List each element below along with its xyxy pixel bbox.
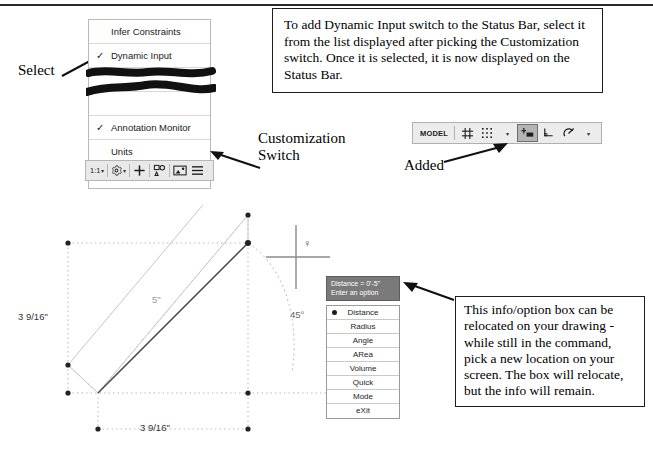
info-distance-value: Distance = 0'-5": [331, 279, 396, 288]
menu-item-label: Infer Constraints: [111, 26, 181, 37]
added-annotation-label: Added: [404, 157, 444, 174]
plus-icon: [133, 164, 146, 177]
scribble-redaction-marks: [86, 63, 216, 99]
option-label: Radius: [351, 322, 376, 331]
customization-switch-annotation: Customization Switch: [258, 130, 346, 164]
dimension-line-length: 5": [152, 294, 161, 305]
crosshair-cursor: [266, 225, 330, 289]
divider: [129, 164, 130, 177]
divider: [169, 164, 170, 177]
hamburger-icon: [191, 165, 204, 176]
annotation-scale-button[interactable]: 1:1 ▾: [88, 162, 106, 179]
chevron-down-icon: ▾: [587, 130, 590, 137]
instruction-note-bottom: This info/option box can be relocated on…: [455, 296, 645, 407]
chevron-down-icon: ▾: [506, 130, 509, 137]
option-mode[interactable]: Mode: [327, 390, 399, 404]
instruction-note-top-text: To add Dynamic Input switch to the Statu…: [284, 17, 592, 83]
shapes-icon: [153, 164, 166, 177]
option-quick[interactable]: Quick: [327, 376, 399, 390]
annotation-visibility-button[interactable]: ▾: [109, 162, 128, 179]
option-label: Quick: [353, 378, 373, 387]
annotation-scale-label: 1:1: [90, 166, 100, 175]
dimension-vertical-left: 3 9/16": [18, 311, 48, 322]
info-option-box[interactable]: Distance = 0'-5" Enter an option Distanc…: [326, 276, 400, 419]
option-label: Angle: [353, 336, 373, 345]
dynamic-input-button[interactable]: [517, 124, 538, 142]
page-header-rule: [0, 4, 653, 6]
divider: [107, 164, 108, 177]
menu-item-label: Dynamic Input: [111, 50, 172, 61]
info-prompt-text: Enter an option: [331, 288, 396, 297]
option-angle[interactable]: Angle: [327, 334, 399, 348]
option-label: Distance: [347, 308, 378, 317]
menu-item-annotation-monitor[interactable]: ✓ Annotation Monitor: [89, 116, 210, 140]
add-scales-button[interactable]: [131, 162, 148, 179]
option-exit[interactable]: eXit: [327, 404, 399, 418]
status-bar-tool-strip[interactable]: 1:1 ▾ ▾: [85, 160, 214, 181]
option-label: eXit: [356, 406, 370, 415]
option-label: Volume: [350, 364, 377, 373]
menu-item-label: Units: [111, 146, 133, 157]
dimension-horizontal-bottom: 3 9/16": [140, 422, 170, 433]
screen-icon: [173, 165, 187, 176]
option-distance[interactable]: Distance: [327, 306, 399, 320]
added-arrow: [440, 140, 510, 166]
option-label: ARea: [353, 350, 373, 359]
customization-switch-arrow: [204, 148, 264, 172]
selected-bullet-icon: [332, 310, 337, 315]
chevron-down-icon: ▾: [123, 167, 126, 174]
grid-icon: [461, 127, 474, 140]
drawn-line: [98, 243, 248, 393]
divider: [149, 164, 150, 177]
option-label: Mode: [353, 392, 373, 401]
option-list[interactable]: Distance Radius Angle ARea Volume Quick …: [326, 305, 400, 419]
menu-item-infer-constraints[interactable]: Infer Constraints: [89, 20, 210, 44]
chevron-down-icon: ▾: [101, 167, 104, 174]
polar-tracking-icon: [562, 127, 575, 140]
option-area[interactable]: ARea: [327, 348, 399, 362]
gear-icon: [111, 165, 122, 176]
divider: [454, 126, 455, 140]
instruction-note-top: To add Dynamic Input switch to the Statu…: [272, 8, 603, 93]
polar-tracking-button[interactable]: [558, 124, 578, 142]
option-radius[interactable]: Radius: [327, 320, 399, 334]
customization-switch-line2: Switch: [258, 147, 346, 164]
clean-screen-button[interactable]: [171, 162, 189, 179]
ortho-mode-button[interactable]: [538, 124, 558, 142]
dynamic-input-icon: [521, 127, 534, 139]
polar-dropdown-caret[interactable]: ▾: [578, 124, 598, 142]
info-box-callout-arrow: [398, 278, 458, 308]
instruction-note-bottom-text: This info/option box can be relocated on…: [464, 302, 637, 400]
select-annotation-label: Select: [18, 62, 55, 79]
isolate-objects-button[interactable]: [151, 162, 168, 179]
checkmark-icon: ✓: [96, 116, 104, 140]
info-option-box-header: Distance = 0'-5" Enter an option: [326, 276, 400, 301]
option-volume[interactable]: Volume: [327, 362, 399, 376]
cursor-badge-icon: ♀: [303, 237, 311, 249]
customization-switch-line1: Customization: [258, 130, 346, 147]
ortho-angle-icon: [542, 127, 555, 139]
dimension-angle: 45°: [290, 309, 305, 320]
menu-item-label: Annotation Monitor: [111, 122, 191, 133]
snap-dots-icon: [481, 127, 493, 139]
